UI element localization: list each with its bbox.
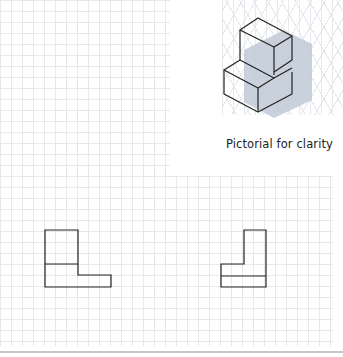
square-grid-top-left bbox=[0, 0, 170, 176]
side-view bbox=[216, 225, 276, 295]
pictorial-sketch bbox=[222, 0, 343, 120]
pictorial-caption: Pictorial for clarity bbox=[226, 137, 343, 151]
bottom-divider bbox=[0, 351, 343, 353]
front-view-outline bbox=[45, 230, 111, 287]
pictorial-shaded-face bbox=[244, 30, 312, 118]
front-view bbox=[40, 225, 120, 295]
side-view-outline bbox=[221, 230, 266, 287]
